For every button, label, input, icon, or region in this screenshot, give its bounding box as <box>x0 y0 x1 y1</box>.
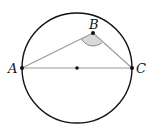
center-point <box>75 66 79 70</box>
diagram-canvas: A B C <box>0 0 152 129</box>
point-c <box>130 66 134 70</box>
label-b: B <box>88 17 99 32</box>
label-a: A <box>7 61 17 76</box>
label-c: C <box>136 61 146 76</box>
segment-ab <box>22 33 93 68</box>
point-a <box>20 66 24 70</box>
segment-bc <box>93 33 132 68</box>
angle-b-marker <box>82 33 103 46</box>
